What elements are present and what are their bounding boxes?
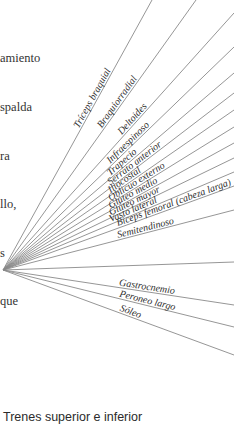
figure-caption: Trenes superior e inferior: [3, 410, 142, 424]
muscle-fan-diagram: Tríceps braquialBraquiorradialDeltoidesI…: [0, 0, 234, 426]
muscle-leader-line: [3, 270, 234, 327]
muscle-leader-line: [3, 262, 234, 270]
muscle-leader-line: [3, 270, 234, 305]
